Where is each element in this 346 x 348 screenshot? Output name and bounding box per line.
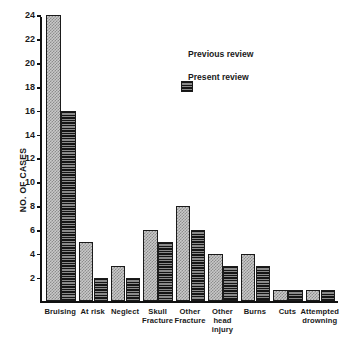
- bar-previous: [176, 206, 191, 301]
- y-tick-label: 22: [25, 34, 35, 44]
- bar-present: [158, 242, 173, 302]
- bar-present: [191, 230, 206, 302]
- bar-group: [46, 15, 78, 301]
- y-tick-mark: [37, 230, 41, 232]
- x-tick-label: Attempteddrowning: [298, 307, 342, 325]
- bar-previous: [241, 254, 256, 302]
- bar-previous: [143, 230, 158, 302]
- legend-label-previous-review: Previous review: [188, 49, 253, 59]
- y-tick-mark: [37, 135, 41, 137]
- bar-group: [143, 15, 175, 301]
- bar-present: [61, 111, 76, 302]
- y-tick-label: 2: [30, 273, 35, 283]
- y-tick-mark: [37, 278, 41, 280]
- y-tick-label: 6: [30, 225, 35, 235]
- bar-present: [126, 278, 141, 302]
- bar-present: [321, 290, 336, 302]
- bar-previous: [306, 290, 321, 302]
- chart-legend: Previous review Present review: [181, 46, 311, 92]
- y-tick-label: 8: [30, 201, 35, 211]
- bar-group: [110, 15, 142, 301]
- legend-swatch-present-review: [181, 81, 193, 92]
- y-tick-label: 4: [30, 249, 35, 259]
- y-tick-label: 10: [25, 177, 35, 187]
- y-tick-mark: [37, 87, 41, 89]
- bar-previous: [273, 290, 288, 302]
- y-tick-mark: [37, 254, 41, 256]
- y-tick-mark: [37, 63, 41, 65]
- bar-chart: NO. OF CASES 24681012141618202224 Bruisi…: [0, 0, 346, 348]
- y-tick-mark: [37, 158, 41, 160]
- bar-present: [94, 278, 109, 302]
- legend-item-previous-review: Previous review: [181, 46, 311, 62]
- y-tick-label: 16: [25, 106, 35, 116]
- y-tick-mark: [37, 206, 41, 208]
- bar-present: [223, 266, 238, 302]
- y-tick-label: 20: [25, 58, 35, 68]
- bar-present: [256, 266, 271, 302]
- y-tick-label: 14: [25, 130, 35, 140]
- y-tick-mark: [37, 39, 41, 41]
- legend-item-present-review: Present review: [181, 69, 311, 85]
- y-tick-label: 24: [25, 10, 35, 20]
- bar-previous: [208, 254, 223, 302]
- x-axis-line: [40, 301, 338, 303]
- y-tick-label: 18: [25, 82, 35, 92]
- bar-previous: [111, 266, 126, 302]
- bar-previous: [46, 15, 61, 301]
- bar-present: [288, 290, 303, 302]
- legend-label-present-review: Present review: [188, 72, 249, 82]
- bar-group: [78, 15, 110, 301]
- y-tick-label: 12: [25, 153, 35, 163]
- y-tick-mark: [37, 15, 41, 17]
- bar-previous: [79, 242, 94, 302]
- y-tick-mark: [37, 111, 41, 113]
- y-tick-mark: [37, 182, 41, 184]
